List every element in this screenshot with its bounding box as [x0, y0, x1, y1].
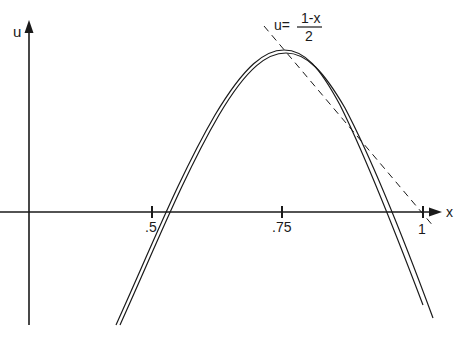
annotation-denominator: 2: [305, 28, 313, 44]
tick-label-0-75: .75: [272, 219, 292, 235]
solution-curve-1: [116, 50, 423, 325]
y-axis-arrow-icon: [25, 20, 34, 33]
line-annotation: u= 1-x 2: [274, 10, 322, 44]
x-axis-label: x: [446, 204, 453, 220]
solution-curve-2: [120, 53, 433, 325]
tick-label-1: 1: [418, 221, 426, 237]
annotation-numerator: 1-x: [301, 10, 320, 26]
y-axis-label: u: [13, 23, 21, 40]
y-axis: u: [13, 20, 34, 325]
tick-label-0-5: .5: [145, 219, 157, 235]
annotation-lhs: u=: [274, 17, 290, 33]
diagram: u x .5 .75 1 u= 1-x 2: [0, 0, 470, 341]
dashed-line: [264, 26, 434, 227]
solution-curves: [116, 50, 433, 325]
x-axis-arrow-icon: [429, 208, 442, 217]
